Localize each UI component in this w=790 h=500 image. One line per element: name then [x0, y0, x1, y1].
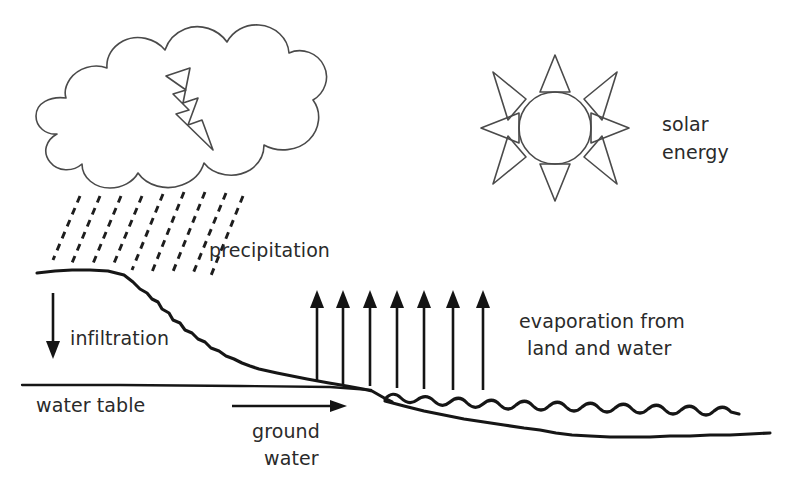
infiltration-arrow	[46, 293, 60, 359]
evaporation-arrow	[310, 290, 324, 382]
sun-icon	[481, 55, 629, 201]
evaporation-arrow	[417, 290, 431, 389]
water-cycle-diagram: precipitation solar energy infiltration …	[0, 0, 790, 500]
land-slope-line	[37, 270, 392, 402]
evaporation-arrow	[476, 290, 490, 390]
wave-surface-line	[385, 394, 739, 415]
sun-rays	[481, 55, 629, 201]
evaporation-arrow	[336, 290, 350, 384]
evaporation-arrow	[446, 290, 460, 390]
evaporation-arrow	[390, 290, 404, 388]
rain-dashes	[53, 192, 243, 278]
evaporation-arrow	[363, 290, 377, 386]
cloud-outline	[36, 25, 327, 188]
water-table-line	[22, 385, 371, 390]
lightning-bolt-icon	[166, 68, 213, 150]
evaporation-arrows	[310, 290, 490, 390]
ground-water-arrow	[232, 400, 347, 412]
sun-disc	[519, 92, 591, 164]
water-cycle-canvas	[0, 0, 790, 500]
